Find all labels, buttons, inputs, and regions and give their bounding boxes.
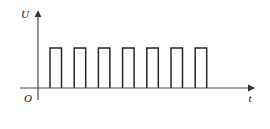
- pulse-3: [98, 48, 110, 88]
- pulse-5: [147, 48, 159, 88]
- x-axis-label: t: [248, 92, 252, 104]
- y-axis-label: U: [21, 8, 30, 20]
- y-axis: [35, 10, 42, 100]
- pulse-1: [50, 48, 62, 88]
- pulse-4: [123, 48, 135, 88]
- waveform-figure: U t O: [0, 0, 270, 129]
- x-axis-arrowhead: [248, 85, 255, 92]
- pulse-7: [195, 48, 207, 88]
- x-axis: [20, 85, 255, 92]
- waveform-canvas: U t O: [0, 0, 270, 129]
- origin-label: O: [24, 92, 32, 104]
- pulse-train: [50, 48, 207, 88]
- pulse-2: [74, 48, 86, 88]
- y-axis-arrowhead: [35, 10, 42, 17]
- pulse-6: [171, 48, 183, 88]
